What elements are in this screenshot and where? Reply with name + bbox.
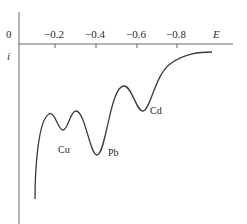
tick-label-0.2: −0.2 bbox=[44, 28, 64, 40]
cu-label: Cu bbox=[58, 144, 70, 155]
tick-label-0.4: −0.4 bbox=[85, 28, 105, 40]
x-axis-label: E bbox=[212, 28, 220, 40]
y-axis-label: i bbox=[7, 50, 10, 62]
tick-label-0.6: −0.6 bbox=[126, 28, 146, 40]
current-curve bbox=[35, 52, 212, 199]
tick-label-0.8: −0.8 bbox=[166, 28, 186, 40]
cd-label: Cd bbox=[150, 105, 162, 116]
origin-label: 0 bbox=[6, 28, 12, 40]
stripping-voltammogram: 0 i E −0.2 −0.4 −0.6 −0.8 Cu Pb Cd bbox=[0, 0, 247, 224]
pb-label: Pb bbox=[108, 147, 119, 158]
